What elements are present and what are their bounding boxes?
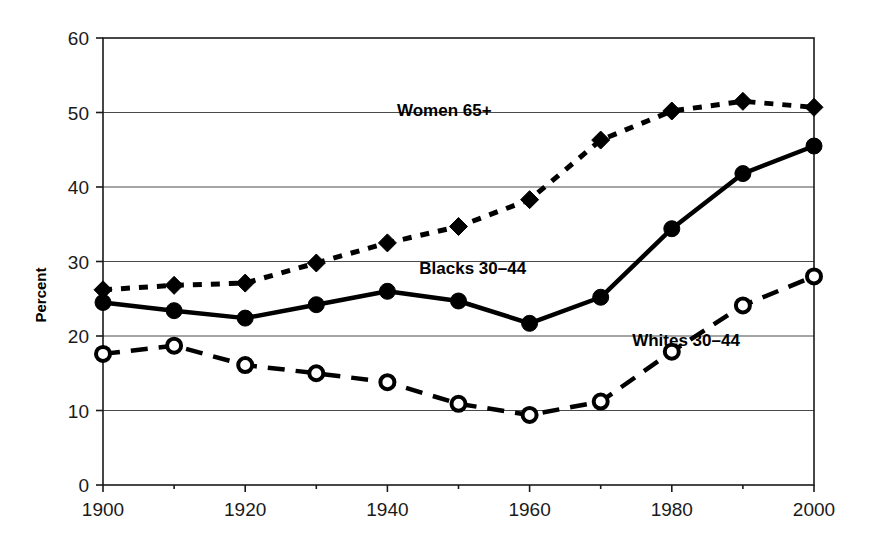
x-tick-label-2000: 2000: [793, 499, 835, 520]
data-point: [451, 293, 467, 309]
data-point: [380, 375, 394, 389]
y-tick-label-40: 40: [68, 177, 89, 198]
data-point: [663, 102, 681, 120]
data-point: [807, 269, 821, 283]
data-point: [805, 98, 823, 116]
data-point: [450, 217, 468, 235]
y-tick-label-10: 10: [68, 401, 89, 422]
data-point: [165, 276, 183, 294]
data-point: [166, 303, 182, 319]
data-point: [307, 254, 325, 272]
data-point: [521, 191, 539, 209]
x-axis-tick-labels: 190019201940196019802000: [82, 499, 835, 520]
line-chart: 0102030405060 190019201940196019802000 P…: [0, 0, 874, 549]
data-point: [523, 408, 537, 422]
series-lines: [103, 101, 814, 415]
data-point: [735, 166, 751, 182]
data-point: [594, 395, 608, 409]
series-label-1: Blacks 30–44: [419, 259, 526, 278]
data-point: [308, 297, 324, 313]
data-point: [238, 358, 252, 372]
data-point: [664, 221, 680, 237]
data-point: [806, 138, 822, 154]
data-point: [379, 283, 395, 299]
data-point: [452, 397, 466, 411]
data-point: [378, 234, 396, 252]
y-axis-tick-labels: 0102030405060: [68, 28, 89, 496]
y-tick-label-60: 60: [68, 28, 89, 49]
series-markers: [94, 92, 823, 422]
y-tick-label-50: 50: [68, 103, 89, 124]
y-tick-label-30: 30: [68, 252, 89, 273]
x-tick-label-1980: 1980: [651, 499, 693, 520]
y-tick-label-20: 20: [68, 326, 89, 347]
series-label-2: Whites 30–44: [632, 331, 740, 350]
data-point: [736, 298, 750, 312]
data-point: [96, 347, 110, 361]
data-point: [95, 294, 111, 310]
data-point: [237, 310, 253, 326]
data-point: [236, 274, 254, 292]
series-label-0: Women 65+: [397, 101, 492, 120]
x-tick-label-1900: 1900: [82, 499, 124, 520]
x-tick-label-1940: 1940: [366, 499, 408, 520]
x-tick-label-1960: 1960: [508, 499, 550, 520]
data-point: [309, 366, 323, 380]
data-point: [734, 92, 752, 110]
x-tick-label-1920: 1920: [224, 499, 266, 520]
y-axis-title: Percent: [32, 267, 49, 322]
y-axis-title-text: Percent: [32, 267, 49, 322]
data-point: [593, 289, 609, 305]
series-annotations: Women 65+Blacks 30–44Whites 30–44: [397, 101, 740, 350]
data-point: [167, 339, 181, 353]
y-tick-label-0: 0: [78, 475, 89, 496]
chart-container: 0102030405060 190019201940196019802000 P…: [0, 0, 874, 549]
data-point: [522, 315, 538, 331]
